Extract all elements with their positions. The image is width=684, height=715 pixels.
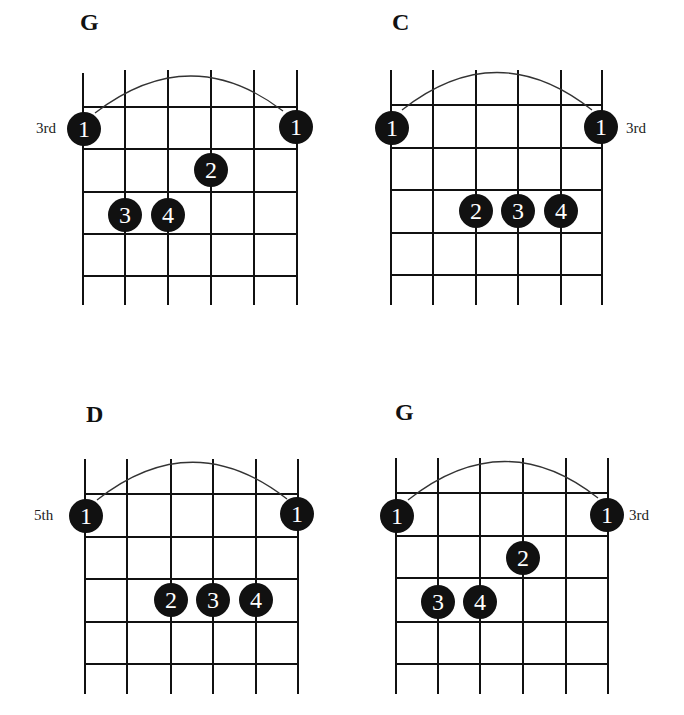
fretboard-grid	[342, 0, 684, 330]
finger-dot: 1	[69, 499, 103, 533]
chord-diagram-c-3rd-position: C 3rd 1 1 2 3 4	[342, 0, 684, 330]
finger-dot: 1	[279, 110, 313, 144]
fret-position-label: 5th	[34, 508, 53, 523]
finger-dot: 1	[280, 497, 314, 531]
finger-dot: 2	[154, 583, 188, 617]
fretboard-grid	[0, 0, 342, 330]
finger-dot: 3	[108, 198, 142, 232]
finger-dot: 3	[196, 583, 230, 617]
chord-diagram-g-3rd-position: G 3rd 1 1 2 3 4	[0, 0, 342, 330]
finger-dot: 1	[584, 110, 618, 144]
fret-position-label: 3rd	[626, 121, 646, 136]
finger-dot: 1	[590, 498, 624, 532]
finger-dot: 2	[459, 194, 493, 228]
finger-dot: 4	[544, 194, 578, 228]
finger-dot: 4	[463, 585, 497, 619]
finger-dot: 1	[67, 112, 101, 146]
finger-dot: 2	[194, 153, 228, 187]
chord-diagram-g-3rd-position-alt: G 3rd 1 1 2 3 4	[342, 380, 684, 715]
finger-dot: 1	[375, 111, 409, 145]
finger-dot: 4	[239, 583, 273, 617]
finger-dot: 3	[501, 194, 535, 228]
finger-dot: 2	[506, 541, 540, 575]
fret-position-label: 3rd	[36, 121, 56, 136]
fret-position-label: 3rd	[629, 508, 649, 523]
chord-diagram-d-5th-position: D 5th 1 1 2 3 4	[0, 380, 342, 715]
finger-dot: 4	[151, 198, 185, 232]
finger-dot: 1	[380, 499, 414, 533]
finger-dot: 3	[421, 585, 455, 619]
fretboard-grid	[0, 380, 342, 715]
barre-arc	[408, 461, 598, 500]
